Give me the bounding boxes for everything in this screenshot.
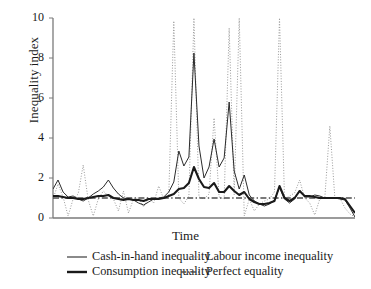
figure: Inequality index Time 0 2 4 6 8 10 Cash-… (0, 0, 371, 289)
x-axis-title: Time (0, 228, 371, 244)
y-tick-label-8: 8 (20, 50, 44, 65)
legend-row-1: Cash-in-hand inequality Labour income in… (0, 249, 371, 264)
legend-label: Labour income inequality (206, 249, 333, 264)
y-tick-label-6: 6 (20, 90, 44, 105)
legend-item-labour-income-inequality: Labour income inequality (181, 249, 356, 264)
chart-legend: Cash-in-hand inequality Labour income in… (0, 249, 371, 279)
chart-plot-area (0, 0, 371, 289)
y-tick-label-4: 4 (20, 130, 44, 145)
legend-swatch-solid-thin-icon (67, 252, 87, 262)
y-tick-label-2: 2 (20, 170, 44, 185)
legend-item-consumption-inequality: Consumption inequality (15, 264, 181, 279)
legend-item-cash-in-hand-inequality: Cash-in-hand inequality (15, 249, 181, 264)
y-tick-label-0: 0 (20, 210, 44, 225)
legend-swatch-solid-thick-icon (67, 267, 87, 277)
legend-item-perfect-equality: Perfect equality (181, 264, 356, 279)
legend-row-2: Consumption inequality Perfect equality (0, 264, 371, 279)
legend-label: Perfect equality (206, 264, 284, 279)
legend-swatch-dash-dot-icon (181, 267, 201, 277)
y-tick-label-10: 10 (20, 10, 44, 25)
legend-swatch-dotted-icon (181, 252, 201, 262)
